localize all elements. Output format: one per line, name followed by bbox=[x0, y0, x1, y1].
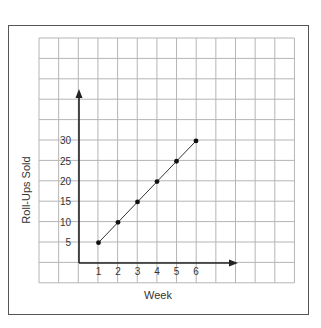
x-tick-label: 6 bbox=[193, 266, 199, 277]
y-tick-labels: 51015202530 bbox=[60, 135, 72, 248]
y-tick-label: 30 bbox=[60, 135, 72, 146]
data-series bbox=[96, 139, 198, 246]
y-tick-label: 10 bbox=[60, 217, 72, 228]
line-chart: 123456 51015202530 Week Roll-Ups Sold bbox=[0, 0, 321, 328]
y-axis-title: Roll-Ups Sold bbox=[20, 156, 32, 223]
x-tick-label: 4 bbox=[154, 266, 160, 277]
x-axis-arrow-icon bbox=[229, 260, 238, 267]
data-point bbox=[96, 240, 101, 245]
y-tick-label: 20 bbox=[60, 176, 72, 187]
x-tick-label: 1 bbox=[96, 266, 102, 277]
y-tick-label: 5 bbox=[65, 237, 71, 248]
y-tick-label: 15 bbox=[60, 196, 72, 207]
x-tick-label: 2 bbox=[115, 266, 121, 277]
data-point bbox=[135, 200, 140, 205]
data-point bbox=[174, 159, 179, 164]
data-point bbox=[155, 179, 160, 184]
grid-lines bbox=[39, 38, 294, 283]
data-point bbox=[194, 139, 199, 144]
x-tick-labels: 123456 bbox=[96, 266, 200, 277]
y-axis-arrow-icon bbox=[76, 89, 83, 98]
x-tick-label: 3 bbox=[135, 266, 141, 277]
y-tick-label: 25 bbox=[60, 156, 72, 167]
series-line bbox=[99, 141, 197, 243]
x-axis-title: Week bbox=[144, 289, 172, 301]
data-point bbox=[116, 220, 121, 225]
x-tick-label: 5 bbox=[174, 266, 180, 277]
